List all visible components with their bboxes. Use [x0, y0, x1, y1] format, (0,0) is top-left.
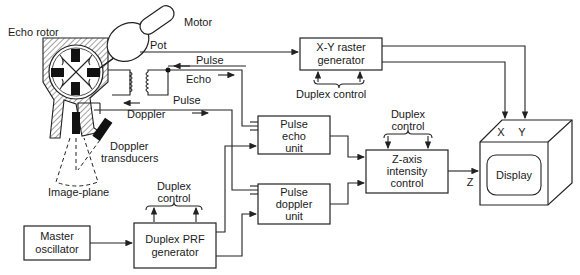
svg-text:unit: unit	[285, 142, 303, 154]
label-pulse-top: Pulse	[196, 54, 224, 66]
svg-text:Z-axis: Z-axis	[392, 153, 422, 165]
display-label: Display	[496, 169, 533, 181]
label-pulse-mid: Pulse	[173, 94, 201, 106]
svg-text:intensity: intensity	[387, 165, 428, 177]
label-duplex-control-prf-1: Duplex	[157, 180, 192, 192]
duplex-control-z	[384, 130, 432, 148]
label-duplex-control-raster: Duplex control	[296, 88, 366, 100]
label-x: X	[497, 126, 505, 138]
block-xy-raster-generator: X-Y raster generator	[300, 38, 382, 70]
block-pulse-echo-unit: Pulse echo unit	[258, 116, 330, 154]
svg-text:oscillator: oscillator	[35, 243, 79, 255]
block-duplex-prf-generator: Duplex PRF generator	[134, 223, 216, 268]
label-z: Z	[467, 176, 474, 188]
rotor-crystal-top	[71, 49, 80, 62]
block-diagram: X-Y raster generator Pulse echo unit Pul…	[0, 0, 580, 275]
label-doppler-transducers-2: transducers	[101, 152, 159, 164]
svg-text:doppler: doppler	[276, 198, 313, 210]
svg-text:Pulse: Pulse	[280, 118, 308, 130]
svg-text:Duplex PRF: Duplex PRF	[145, 233, 205, 245]
svg-text:generator: generator	[151, 246, 198, 258]
diagram-canvas: X-Y raster generator Pulse echo unit Pul…	[0, 0, 580, 275]
block-z-axis-intensity-control: Z-axis intensity control	[366, 150, 448, 193]
label-motor: Motor	[184, 16, 212, 28]
imaging-transducer	[72, 112, 80, 134]
label-image-plane: Image-plane	[48, 186, 109, 198]
label-doppler-transducers-1: Doppler	[110, 140, 149, 152]
label-pot: Pot	[150, 39, 167, 51]
duplex-control-prf	[146, 202, 202, 222]
motor-assembly	[100, 3, 177, 70]
svg-text:echo: echo	[282, 130, 306, 142]
duplex-control-raster	[314, 72, 364, 88]
block-master-oscillator: Master oscillator	[24, 226, 90, 260]
label-echo-rotor: Echo rotor	[8, 26, 59, 38]
xy-raster-label-2: generator	[317, 54, 364, 66]
image-plane-outline	[56, 138, 98, 186]
rotor-crystal-right	[87, 68, 100, 77]
label-duplex-control-z-2: control	[391, 120, 424, 132]
label-y: Y	[518, 126, 526, 138]
svg-text:Master: Master	[40, 230, 74, 242]
svg-text:unit: unit	[285, 210, 303, 222]
block-display: Display	[480, 120, 572, 205]
label-echo: Echo	[186, 73, 211, 85]
rotor-crystal-bottom	[71, 82, 80, 95]
svg-text:control: control	[390, 177, 423, 189]
xy-raster-label-1: X-Y raster	[316, 41, 366, 53]
label-duplex-control-z-1: Duplex	[391, 108, 426, 120]
svg-text:Pulse: Pulse	[280, 186, 308, 198]
rotary-transformer	[108, 68, 171, 96]
label-doppler: Doppler	[127, 108, 166, 120]
rotor-crystal-left	[51, 68, 64, 77]
motor-body	[137, 3, 177, 38]
label-duplex-control-prf-2: control	[157, 192, 190, 204]
block-pulse-doppler-unit: Pulse doppler unit	[258, 184, 330, 224]
